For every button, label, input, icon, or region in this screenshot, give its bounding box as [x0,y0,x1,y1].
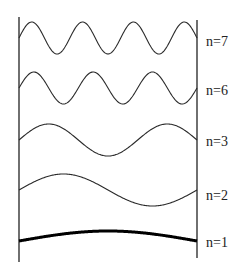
mode-label-n6: n=6 [206,83,228,98]
standing-wave-diagram: n=7 n=6 n=3 n=2 n=1 [0,0,240,275]
wave-n3 [19,124,197,156]
wave-n2 [19,174,197,206]
wave-n7 [19,22,197,54]
mode-label-n7: n=7 [206,34,228,49]
mode-label-n2: n=2 [206,188,228,203]
mode-label-n3: n=3 [206,134,228,149]
wave-n6 [19,72,197,104]
mode-label-n1: n=1 [206,235,228,250]
wave-n1-fundamental [19,231,197,241]
